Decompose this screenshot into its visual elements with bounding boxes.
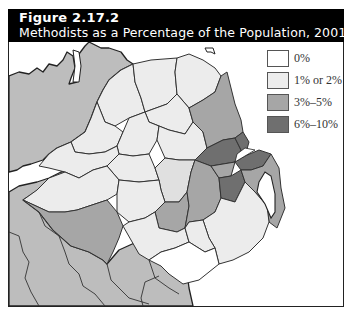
legend-swatch (267, 94, 289, 111)
legend-item-0pct: 0% (267, 50, 344, 70)
figure-number: Figure 2.17.2 (19, 10, 119, 25)
legend-swatch (267, 72, 289, 89)
map-area: 0% 1% or 2% 3%–5% 6%–10% (8, 42, 344, 307)
legend-label: 6%–10% (294, 117, 338, 132)
legend-swatch (267, 116, 289, 133)
figure-header: Figure 2.17.2 Methodists as a Percentage… (8, 9, 344, 42)
legend-item-3-5pct: 3%–5% (267, 94, 344, 114)
figure-title: Methodists as a Percentage of the Popula… (19, 25, 346, 40)
figure: Figure 2.17.2 Methodists as a Percentage… (8, 9, 344, 308)
legend-swatch (267, 50, 289, 67)
legend-item-1-2pct: 1% or 2% (267, 72, 344, 92)
legend-label: 3%–5% (294, 95, 332, 110)
legend-label: 0% (294, 51, 310, 66)
rathlin-island (205, 48, 215, 54)
legend-item-6-10pct: 6%–10% (267, 116, 344, 136)
legend-label: 1% or 2% (294, 73, 342, 88)
